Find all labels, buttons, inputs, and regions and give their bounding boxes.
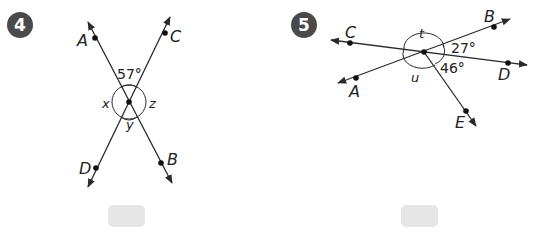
label-c: C: [170, 27, 182, 46]
angles-diagram-5: C A B D E t u 27° 46°: [273, 0, 546, 232]
vertex-point: [126, 99, 132, 105]
angle-arc-left: [403, 49, 404, 59]
point-c: [162, 30, 168, 36]
label-a: A: [348, 82, 360, 101]
label-d: D: [498, 65, 510, 84]
angle-label-y: y: [125, 117, 134, 132]
angle-label-x: x: [101, 96, 110, 111]
label-b: B: [484, 7, 495, 26]
label-c: C: [345, 23, 357, 42]
angle-label-z: z: [148, 96, 157, 111]
problem-5: 5 C A B D E t u 27° 46°: [273, 0, 546, 232]
angle-label-46: 46°: [440, 60, 465, 76]
angle-label-27: 27°: [451, 40, 476, 56]
vertex-point: [421, 49, 427, 55]
angle-arc-57: [121, 85, 137, 87]
label-e: E: [455, 113, 466, 132]
answer-input-5[interactable]: [401, 205, 438, 227]
line-cd: [331, 40, 527, 65]
point-a: [353, 75, 359, 81]
label-d: D: [79, 159, 91, 178]
angle-label-u: u: [411, 70, 419, 85]
point-b: [158, 160, 164, 166]
angle-label-t: t: [419, 26, 425, 41]
point-d: [93, 165, 99, 171]
angle-label-57: 57°: [117, 66, 142, 82]
label-a: A: [76, 31, 88, 50]
problem-4: 4 A C D B 57° x z y: [0, 0, 273, 232]
label-b: B: [167, 150, 178, 169]
vertical-angles-diagram-4: A C D B 57° x z y: [0, 0, 273, 232]
point-a: [92, 35, 98, 41]
answer-input-4[interactable]: [108, 205, 145, 227]
